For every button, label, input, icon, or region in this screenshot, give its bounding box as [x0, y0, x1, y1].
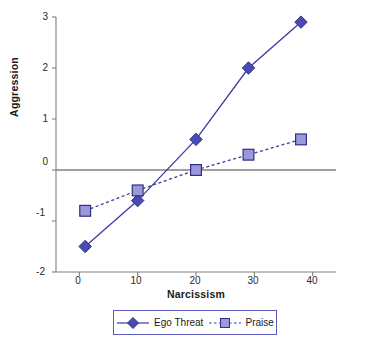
data-point [132, 185, 143, 196]
legend-swatch-praise-icon [208, 316, 242, 330]
series-ego-threat [79, 16, 307, 253]
data-point [80, 205, 91, 216]
chart-figure: Aggression 3 2 1 0 -1 -2 0 10 20 30 40 N… [0, 0, 380, 350]
legend-label-praise: Praise [246, 317, 274, 328]
legend-label-ego-threat: Ego Threat [154, 317, 203, 328]
axis-layer [52, 17, 336, 276]
legend-swatch-ego-threat-icon [116, 316, 150, 330]
legend-entry-praise: Praise [208, 316, 274, 330]
series-layer [79, 16, 307, 253]
series-praise [80, 134, 307, 216]
data-point [191, 165, 202, 176]
data-point [296, 134, 307, 145]
legend: Ego Threat Praise [113, 310, 277, 335]
legend-entry-ego-threat: Ego Threat [116, 316, 203, 330]
data-point [243, 149, 254, 160]
plot-area [0, 0, 380, 350]
